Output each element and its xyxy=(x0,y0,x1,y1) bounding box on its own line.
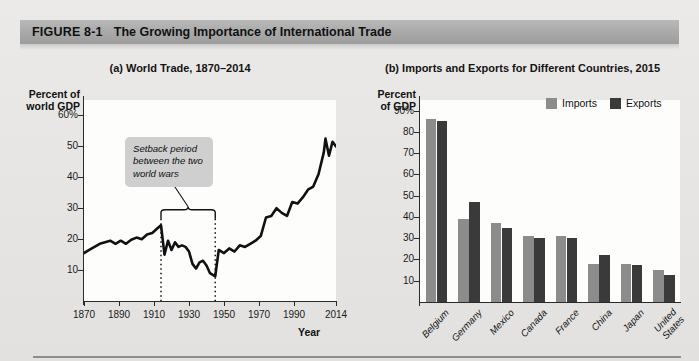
panel-a-x-tick-mark xyxy=(189,301,190,306)
panel-b-y-tick-mark xyxy=(414,281,419,282)
panel-a-x-tick-mark xyxy=(336,301,337,306)
bar-france-exports xyxy=(567,238,578,302)
panel-b-y-tick-mark xyxy=(414,196,419,197)
figure-title: The Growing Importance of International … xyxy=(114,25,392,39)
panel-a-x-tick-label: 1990 xyxy=(274,309,314,320)
panel-b-y-tick-label: 40 xyxy=(366,211,414,222)
bar-belgium-imports xyxy=(426,119,437,302)
panel-a-x-axis xyxy=(83,301,337,302)
panel-a-y-tick-label: 50 xyxy=(30,140,78,151)
bar-united-states-exports xyxy=(664,275,675,302)
figure-number: FIGURE 8-1 xyxy=(32,25,103,39)
panel-a-y-tick-mark xyxy=(78,146,83,147)
panel-b-y-tick-label: 10 xyxy=(366,275,414,286)
panel-a-y-tick-mark xyxy=(78,208,83,209)
panel-a-title: (a) World Trade, 1870–2014 xyxy=(12,62,348,74)
panel-a-x-tick-label: 1910 xyxy=(134,309,174,320)
panel-imports-exports: (b) Imports and Exports for Different Co… xyxy=(350,52,695,352)
category-label-canada: Canada xyxy=(518,307,549,339)
panel-b-y-tick-mark xyxy=(414,132,419,133)
panel-a-y-tick-label: 30 xyxy=(30,202,78,213)
bar-mexico-exports xyxy=(502,228,513,302)
panel-a-y-tick-label: 10 xyxy=(30,264,78,275)
panel-a-x-tick-mark xyxy=(224,301,225,306)
panel-b-y-tick-label: 70 xyxy=(366,147,414,158)
panel-a-x-tick-mark xyxy=(84,301,85,306)
panel-a-y-tick-mark xyxy=(78,270,83,271)
panel-a-y-tick-label: 40 xyxy=(30,171,78,182)
panel-a-y-tick-label: 20 xyxy=(30,233,78,244)
panel-a-y-tick-mark xyxy=(78,239,83,240)
panel-b-y-tick-label: 60 xyxy=(366,168,414,179)
panel-a-x-tick-label: 1930 xyxy=(169,309,209,320)
panel-a-x-tick-mark xyxy=(119,301,120,306)
panel-a-y-tick-mark xyxy=(78,177,83,178)
figure-root: FIGURE 8-1 The Growing Importance of Int… xyxy=(0,0,699,361)
panel-a-x-tick-label: 1950 xyxy=(204,309,244,320)
bar-canada-imports xyxy=(523,236,534,302)
panel-b-title: (b) Imports and Exports for Different Co… xyxy=(350,62,695,74)
setback-bracket xyxy=(161,207,215,219)
panel-b-y-tick-mark xyxy=(414,153,419,154)
bar-united-states-imports xyxy=(653,270,664,302)
panel-a-x-tick-mark xyxy=(294,301,295,306)
panel-b-x-axis xyxy=(419,302,681,303)
panel-b-y-tick-label: 20 xyxy=(366,253,414,264)
category-label-belgium: Belgium xyxy=(420,307,452,340)
panel-world-trade: (a) World Trade, 1870–2014 Percent of wo… xyxy=(12,52,348,352)
panel-b-bars-container xyxy=(420,100,680,302)
panel-a-x-tick-label: 1970 xyxy=(239,309,279,320)
bottom-rule xyxy=(33,356,681,358)
panel-b-y-tick-mark xyxy=(414,259,419,260)
figure-banner: FIGURE 8-1 The Growing Importance of Int… xyxy=(20,20,679,44)
banner-shadow xyxy=(20,44,679,50)
panel-a-x-tick-label: 1890 xyxy=(99,309,139,320)
category-label-united-states: UnitedStates xyxy=(652,307,686,342)
bar-japan-exports xyxy=(632,265,643,302)
category-label-china: China xyxy=(589,307,614,333)
panel-a-x-tick-label: 1870 xyxy=(64,309,104,320)
panel-b-y-tick-label: 90% xyxy=(366,105,414,116)
bar-belgium-exports xyxy=(437,121,448,302)
panel-b-y-tick-label: 30 xyxy=(366,232,414,243)
panel-b-y-tick-label: 80 xyxy=(366,126,414,137)
panel-b-y-tick-label: 50 xyxy=(366,190,414,201)
panel-a-annotation-callout: Setback period between the two world war… xyxy=(125,137,213,187)
panel-a-x-tick-mark xyxy=(259,301,260,306)
panel-a-y-tick-label: 60% xyxy=(30,109,78,120)
category-label-france: France xyxy=(553,307,581,336)
bar-germany-imports xyxy=(458,219,469,302)
bar-canada-exports xyxy=(534,238,545,302)
panel-a-y-axis-caption: Percent of world GDP xyxy=(12,88,80,112)
bar-france-imports xyxy=(556,236,567,302)
bar-germany-exports xyxy=(469,202,480,302)
panel-b-y-tick-mark xyxy=(414,174,419,175)
panel-a-y-caption-line1: Percent of xyxy=(12,88,80,100)
category-label-mexico: Mexico xyxy=(488,307,517,337)
panel-a-x-tick-mark xyxy=(154,301,155,306)
category-label-germany: Germany xyxy=(449,307,484,343)
panel-b-y-tick-mark xyxy=(414,238,419,239)
category-label-japan: Japan xyxy=(620,307,646,334)
callout-leader-line xyxy=(174,186,188,207)
panel-a-annotation-graphics xyxy=(84,100,336,301)
bar-japan-imports xyxy=(621,264,632,302)
bar-mexico-imports xyxy=(491,223,502,302)
panel-b-y-tick-mark xyxy=(414,111,419,112)
panel-a-x-axis-title: Year xyxy=(298,326,320,338)
bar-china-exports xyxy=(599,255,610,302)
panel-b-y-tick-mark xyxy=(414,217,419,218)
bar-china-imports xyxy=(588,264,599,302)
panel-a-y-tick-mark xyxy=(78,115,83,116)
panel-b-y-caption-line1: Percent xyxy=(350,88,416,100)
